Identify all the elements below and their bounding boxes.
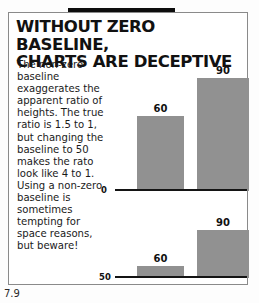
baseline-label-bottom: 50 <box>99 273 111 282</box>
figure-caption: 7.9 <box>4 288 20 299</box>
bar-bottom-1-label: 60 <box>137 253 184 264</box>
bar-bottom-2 <box>197 230 249 278</box>
bar-top-2-label: 90 <box>197 65 249 76</box>
bar-top-2 <box>197 78 249 191</box>
chart-zero-baseline: 60 90 0 <box>101 57 247 191</box>
bar-top-1 <box>137 116 184 191</box>
figure-body-text: The non-zero baseline exaggerates the ap… <box>17 59 110 253</box>
bar-top-1-label: 60 <box>137 103 184 114</box>
plot-area-bottom: 60 90 50 <box>101 198 247 278</box>
baseline-axis-top <box>115 189 247 191</box>
chart-nonzero-baseline: 60 90 50 <box>101 198 247 278</box>
baseline-label-top: 0 <box>101 186 107 195</box>
plot-area-top: 60 90 0 <box>101 57 247 191</box>
baseline-axis-bottom <box>115 276 247 278</box>
figure-frame: WITHOUT ZERO BASELINE, CHARTS ARE DECEPT… <box>8 12 248 285</box>
bar-bottom-2-label: 90 <box>197 217 249 228</box>
